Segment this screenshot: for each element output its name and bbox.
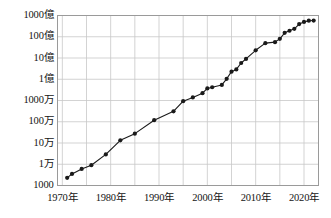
data-point-marker [229, 70, 233, 74]
y-tick-label: 1万 [39, 159, 54, 170]
data-point-marker [287, 29, 291, 33]
data-point-marker [80, 167, 84, 171]
data-point-marker [210, 85, 214, 89]
data-point-marker [312, 18, 316, 22]
data-point-marker [254, 48, 258, 52]
y-tick-label: 10億 [34, 53, 54, 64]
data-point-marker [244, 57, 248, 61]
data-point-marker [118, 138, 122, 142]
data-point-marker [234, 67, 238, 71]
data-point-marker [220, 83, 224, 87]
data-point-marker [200, 91, 204, 95]
data-point-marker [273, 40, 277, 44]
data-point-marker [104, 152, 108, 156]
data-point-markers [65, 18, 316, 179]
data-point-marker [152, 118, 156, 122]
data-point-marker [297, 22, 301, 26]
data-point-marker [263, 41, 267, 45]
data-point-marker [278, 37, 282, 41]
horizontal-gridlines [58, 16, 319, 186]
data-point-marker [205, 86, 209, 90]
transistor-count-chart: 10001万10万100万1000万1億10億100億1000億 1970年19… [0, 0, 331, 218]
data-point-marker [283, 31, 287, 35]
y-tick-label: 10万 [34, 138, 54, 149]
y-tick-label: 1000 [33, 180, 53, 191]
data-point-marker [89, 163, 93, 167]
data-point-marker [307, 19, 311, 23]
data-point-marker [171, 109, 175, 113]
y-tick-label: 100億 [29, 31, 54, 42]
x-tick-label: 2020年 [276, 193, 331, 204]
data-point-marker [70, 172, 74, 176]
data-point-marker [292, 27, 296, 31]
y-tick-label: 1000万 [23, 95, 53, 106]
data-point-marker [133, 132, 137, 136]
data-point-marker [302, 20, 306, 24]
data-point-marker [239, 61, 243, 65]
y-tick-label: 1000億 [23, 10, 53, 21]
data-point-marker [225, 77, 229, 81]
data-point-marker [65, 176, 69, 180]
y-tick-label: 1億 [39, 74, 54, 85]
data-point-marker [181, 99, 185, 103]
data-point-marker [191, 95, 195, 99]
y-tick-label: 100万 [29, 116, 54, 127]
gridlines-group [58, 16, 319, 186]
